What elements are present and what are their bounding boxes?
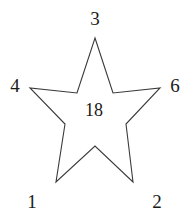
vertex-label-top: 3 [90, 9, 100, 28]
vertex-label-bottom-right: 2 [152, 192, 162, 211]
vertex-label-bottom-left: 1 [27, 192, 37, 211]
vertex-label-right: 6 [170, 76, 180, 95]
star-diagram-figure: 3 4 6 1 2 18 [0, 0, 188, 221]
vertex-label-left: 4 [10, 76, 20, 95]
center-value-label: 18 [85, 101, 103, 119]
